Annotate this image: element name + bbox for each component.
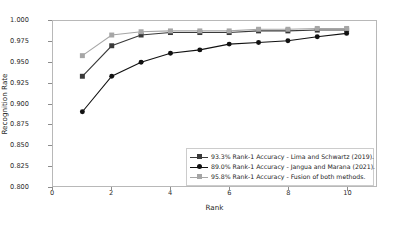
- data-point: [139, 60, 144, 65]
- x-tick-mark: [347, 187, 348, 191]
- data-point: [344, 31, 349, 36]
- legend-label: 93.3% Rank-1 Accuracy - Lima and Schwart…: [211, 152, 374, 162]
- data-point: [285, 38, 290, 43]
- x-tick-mark: [111, 187, 112, 191]
- data-point: [109, 74, 114, 79]
- data-point: [315, 34, 320, 39]
- x-tick-mark: [229, 187, 230, 191]
- figure: Recognition Rate Rank 0.8000.8250.8500.8…: [0, 0, 412, 232]
- data-point: [168, 51, 173, 56]
- series-1: [80, 31, 349, 114]
- y-tick-label: 0.900: [0, 100, 29, 107]
- y-tick-label: 0.875: [0, 121, 29, 128]
- data-point: [109, 33, 114, 38]
- y-tick-label: 0.975: [0, 38, 29, 45]
- data-point: [227, 28, 232, 33]
- series-0: [80, 28, 349, 79]
- data-point: [197, 47, 202, 52]
- legend: 93.3% Rank-1 Accuracy - Lima and Schwart…: [186, 148, 374, 186]
- y-tick-label: 0.800: [0, 184, 29, 191]
- legend-swatch-series-0: [190, 152, 208, 162]
- x-tick-mark: [288, 187, 289, 191]
- series-line: [82, 33, 346, 111]
- legend-swatch-series-1: [190, 162, 208, 172]
- data-point: [168, 28, 173, 33]
- data-point: [197, 28, 202, 33]
- series-line: [82, 30, 346, 76]
- legend-item[interactable]: 89.0% Rank-1 Accuracy - Jangua and Maran…: [190, 162, 369, 172]
- data-point: [109, 43, 114, 48]
- data-point: [256, 27, 261, 32]
- data-point: [344, 26, 349, 31]
- y-tick-label: 1.000: [0, 17, 29, 24]
- data-point: [256, 40, 261, 45]
- legend-item[interactable]: 93.3% Rank-1 Accuracy - Lima and Schwart…: [190, 152, 369, 162]
- data-point: [315, 26, 320, 31]
- data-point: [80, 109, 85, 114]
- x-axis-label: Rank: [52, 203, 377, 212]
- data-point: [285, 27, 290, 32]
- legend-label: 89.0% Rank-1 Accuracy - Jangua and Maran…: [211, 162, 375, 172]
- y-tick-label: 0.950: [0, 58, 29, 65]
- y-tick-label: 0.850: [0, 142, 29, 149]
- legend-label: 95.8% Rank-1 Accuracy - Fusion of both m…: [211, 172, 365, 182]
- data-point: [80, 74, 85, 79]
- data-point: [227, 42, 232, 47]
- data-point: [80, 53, 85, 58]
- y-tick-label: 0.825: [0, 163, 29, 170]
- x-tick-mark: [52, 187, 53, 191]
- legend-swatch-series-2: [190, 172, 208, 182]
- data-point: [139, 29, 144, 34]
- legend-item[interactable]: 95.8% Rank-1 Accuracy - Fusion of both m…: [190, 172, 369, 182]
- y-tick-label: 0.925: [0, 79, 29, 86]
- x-tick-mark: [170, 187, 171, 191]
